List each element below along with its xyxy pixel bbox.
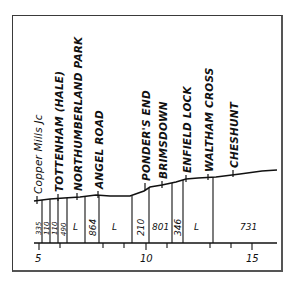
gradient-value-level: L	[194, 222, 199, 232]
gradient-value: 110	[51, 221, 59, 235]
gradient-value: 346	[173, 219, 183, 236]
gradient-value-level: L	[112, 222, 117, 232]
station-label-enfield-lock: ENFIELD LOCK	[181, 86, 193, 173]
station-label-waltham-cross: WALTHAM CROSS	[203, 67, 215, 172]
gradient-value: 210	[136, 219, 146, 236]
station-label-copper-mills-jc: Copper Mills Jc	[32, 114, 44, 194]
station-label-cheshunt: CHESHUNT	[228, 101, 240, 168]
gradient-value: 731	[240, 222, 257, 232]
gradient-value: 490	[60, 222, 68, 236]
axis-label-10: 10	[140, 253, 153, 264]
gradient-value: 801	[152, 222, 169, 232]
station-ticks	[37, 170, 233, 204]
axis-label-15: 15	[246, 253, 259, 264]
station-label-brimsdown: BRIMSDOWN	[157, 101, 169, 179]
gradient-value: 864	[88, 219, 98, 236]
gradient-profile-line	[34, 170, 277, 201]
axis-ticks	[39, 243, 252, 250]
gradient-profile-diagram: 5 10 15 Copper Mills Jc TOTTENHAM (HALE)…	[0, 0, 297, 281]
station-label-angel-road: ANGEL ROAD	[93, 110, 105, 190]
gradient-value-level: L	[73, 222, 78, 232]
gradient-value: 335	[35, 221, 43, 235]
gradient-value: 110	[43, 221, 51, 235]
station-label-northumberland-park: NORTHUMBERLAND PARK	[72, 36, 84, 191]
station-label-tottenham-hale: TOTTENHAM (HALE)	[53, 71, 65, 192]
axis-label-5: 5	[35, 253, 41, 264]
station-label-ponders-end: PONDER'S END	[140, 90, 152, 181]
